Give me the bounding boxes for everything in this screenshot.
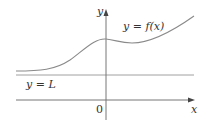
y-axis-arrow-icon — [104, 9, 109, 16]
y-axis-label: y — [96, 5, 104, 18]
x-axis-label: x — [191, 103, 198, 116]
graph-figure: y x 0 y = f(x) y = L — [0, 0, 208, 129]
x-axis-arrow-icon — [188, 98, 195, 103]
function-curve — [16, 16, 194, 71]
curve-label: y = f(x) — [122, 20, 164, 33]
asymptote-label: y = L — [25, 78, 56, 91]
origin-label: 0 — [96, 103, 103, 116]
